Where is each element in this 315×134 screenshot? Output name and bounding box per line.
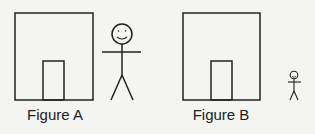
figure-a-label: Figure A — [5, 106, 105, 123]
door-a — [43, 61, 64, 100]
figure-b-label: Figure B — [171, 106, 271, 123]
stick-person-large — [102, 24, 141, 100]
stick-person-small — [288, 71, 301, 100]
head-large — [112, 24, 132, 44]
building-a — [15, 13, 93, 100]
door-b — [211, 61, 232, 100]
figure-b — [183, 13, 301, 100]
figure-a — [15, 13, 141, 100]
building-b — [183, 13, 260, 100]
